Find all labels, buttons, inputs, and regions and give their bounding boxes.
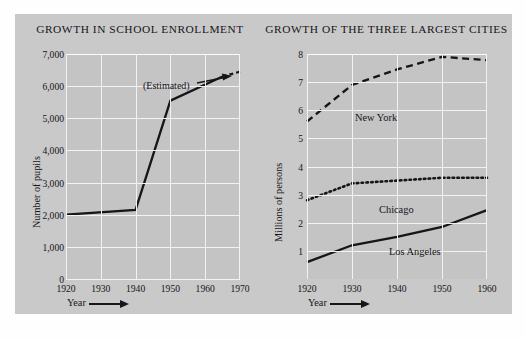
gridline-vertical [307, 54, 308, 279]
y-tick-label: 8 [298, 49, 303, 60]
chart-title-three-largest-cities: GROWTH OF THE THREE LARGEST CITIES [261, 23, 512, 35]
gridline-vertical [352, 54, 353, 279]
figure-page: GROWTH IN SCHOOL ENROLLMENT 01,0002,0003… [0, 0, 525, 339]
y-tick-label: 6 [298, 105, 303, 116]
series-label-chicago: Chicago [379, 204, 414, 215]
y-tick-label: 6,000 [42, 81, 64, 92]
y-tick-label: 5,000 [42, 113, 64, 124]
y-tick-label: 2 [298, 217, 303, 228]
gridline-horizontal [66, 118, 240, 119]
y-tick-label: 7 [298, 77, 303, 88]
figure-plate: GROWTH IN SCHOOL ENROLLMENT 01,0002,0003… [15, 14, 512, 314]
y-tick-label: 5 [298, 133, 303, 144]
gridline-vertical [442, 54, 443, 279]
arrow-right-icon [89, 299, 131, 308]
arrow-right-icon [330, 299, 372, 308]
x-axis-title-text: Year [67, 297, 86, 308]
y-tick-label: 4 [298, 161, 303, 172]
y-tick-label: 1,000 [42, 241, 64, 252]
x-axis-title-three-largest-cities: Year [308, 297, 372, 308]
y-axis-title-school-enrollment: Number of pupils [31, 156, 42, 228]
chart-title-school-enrollment: GROWTH IN SCHOOL ENROLLMENT [15, 23, 265, 35]
x-tick-label: 1940 [387, 283, 406, 294]
x-tick-label: 1970 [230, 283, 249, 294]
series-line-enrollment [66, 77, 223, 215]
y-tick-label: 7,000 [42, 49, 64, 60]
gridline-vertical [486, 54, 487, 279]
y-tick-label: 3,000 [42, 177, 64, 188]
annotation-leader-line [197, 74, 232, 84]
y-axis-title-three-largest-cities: Millions of persons [273, 163, 284, 242]
gridline-horizontal [66, 183, 240, 184]
x-axis-title-text: Year [308, 297, 327, 308]
x-tick-label: 1930 [91, 283, 110, 294]
gridline-horizontal [66, 247, 240, 248]
y-tick-label: 1 [298, 245, 303, 256]
gridline-horizontal [66, 150, 240, 151]
gridline-vertical [205, 54, 206, 279]
x-tick-label: 1940 [126, 283, 145, 294]
annotation-estimated: (Estimated) [143, 80, 190, 91]
gridline-vertical [101, 54, 102, 279]
gridline-horizontal [66, 279, 240, 280]
chart-school-enrollment: GROWTH IN SCHOOL ENROLLMENT 01,0002,0003… [15, 14, 265, 314]
y-tick-label: 4,000 [42, 145, 64, 156]
gridline-vertical [239, 54, 240, 279]
x-tick-label: 1930 [342, 283, 361, 294]
x-tick-label: 1960 [196, 283, 215, 294]
x-tick-label: 1920 [297, 283, 316, 294]
gridline-horizontal [66, 215, 240, 216]
x-tick-label: 1950 [161, 283, 180, 294]
x-tick-label: 1920 [56, 283, 75, 294]
series-label-new-york: New York [355, 112, 397, 123]
gridline-vertical [66, 54, 67, 279]
x-axis-ticks-school-enrollment: 192019301940195019601970 [66, 283, 240, 297]
gridline-horizontal [66, 54, 240, 55]
series-label-los-angeles: Los Angeles [389, 246, 441, 257]
y-tick-label: 2,000 [42, 209, 64, 220]
x-axis-title-school-enrollment: Year [67, 297, 131, 308]
chart-three-largest-cities: GROWTH OF THE THREE LARGEST CITIES 12345… [261, 14, 512, 314]
gridline-vertical [136, 54, 137, 279]
x-tick-label: 1960 [477, 283, 496, 294]
x-axis-ticks-three-largest-cities: 19201930194019501960 [307, 283, 487, 297]
x-tick-label: 1950 [432, 283, 451, 294]
y-tick-label: 3 [298, 189, 303, 200]
